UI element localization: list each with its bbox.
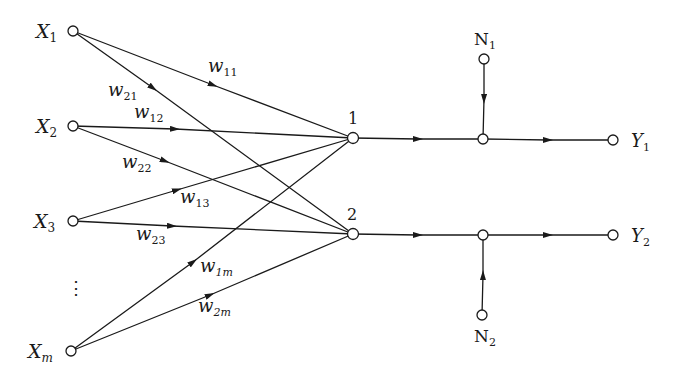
weight-labels: w11 w21 w12 w22 w13 w23 w1m w2m xyxy=(108,55,237,319)
label-y2: Y2 xyxy=(631,225,650,249)
edge-noise2 xyxy=(482,235,483,315)
noise-node-n2 xyxy=(477,310,487,320)
edge-xm-n1 xyxy=(71,138,353,351)
noise-labels: N1 N2 xyxy=(474,29,496,349)
label-w2m: w2m xyxy=(198,295,231,319)
neuron-labels: 1 2 xyxy=(347,109,358,224)
output-node-y2 xyxy=(608,230,618,240)
input-node-xm xyxy=(66,346,76,356)
output-labels: Y1 Y2 xyxy=(631,130,650,249)
label-y1: Y1 xyxy=(631,130,650,154)
input-node-x3 xyxy=(68,216,78,226)
output-node-y1 xyxy=(608,135,618,145)
label-w23: w23 xyxy=(136,223,165,247)
edge-noise1 xyxy=(483,59,484,139)
input-node-x1 xyxy=(68,26,78,36)
label-w13: w13 xyxy=(180,186,209,210)
label-neuron-1: 1 xyxy=(348,109,358,128)
output-edges xyxy=(353,59,613,315)
label-x3: X3 xyxy=(32,210,55,235)
edge-xm-n2 xyxy=(71,234,353,351)
noise-node-n1 xyxy=(479,54,489,64)
neuron-node-1 xyxy=(348,133,359,144)
input-node-x2 xyxy=(68,121,78,131)
network-diagram: X1 X2 X3 Xm ⋮ w11 w21 w12 w22 w13 w23 w1… xyxy=(0,0,683,385)
label-w11: w11 xyxy=(208,55,237,79)
label-w12: w12 xyxy=(134,101,163,125)
label-neuron-2: 2 xyxy=(347,205,357,224)
label-x1: X1 xyxy=(34,20,57,45)
label-x2: X2 xyxy=(34,115,57,140)
label-w21: w21 xyxy=(108,79,137,103)
label-n2: N2 xyxy=(474,326,496,349)
nodes xyxy=(66,26,618,356)
edge-n2-junction2 xyxy=(353,234,483,235)
edge-n1-junction1 xyxy=(353,138,483,139)
label-n1: N1 xyxy=(474,29,496,52)
neuron-node-2 xyxy=(348,229,359,240)
input-labels: X1 X2 X3 Xm ⋮ xyxy=(26,20,85,365)
label-w1m: w1m xyxy=(200,255,233,279)
edge-junction1-y1 xyxy=(483,139,613,140)
junction-node-1 xyxy=(478,134,488,144)
label-xm: Xm xyxy=(26,340,53,365)
ellipsis: ⋮ xyxy=(67,277,85,298)
junction-node-2 xyxy=(478,230,488,240)
edge-x3-n2 xyxy=(73,221,353,234)
edge-x3-n1 xyxy=(73,138,353,221)
